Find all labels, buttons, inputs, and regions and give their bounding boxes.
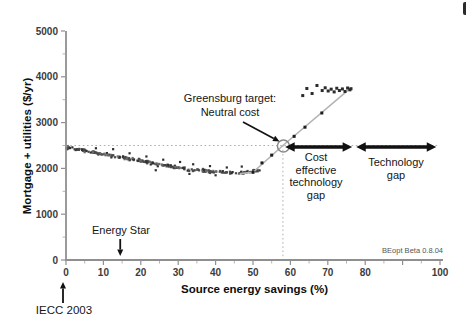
scatter-point [67,145,69,147]
technology-gap-arrow [356,142,436,152]
x-tick-label: 80 [360,267,372,278]
scatter-point [229,171,231,173]
scatter-point [188,173,190,175]
scatter-point [97,152,99,154]
cluster-point [341,87,344,90]
beopt-chart: 0102030405060708010001000200030004000500… [0,0,466,330]
cluster-point [333,90,336,93]
scatter-point [69,147,71,149]
scatter-point [77,149,79,151]
cluster-point [315,84,318,87]
scatter-point [203,169,205,171]
x-tick-label: 40 [210,267,222,278]
x-tick-label: 20 [135,267,147,278]
scatter-point [192,170,194,172]
scatter-point [95,147,97,149]
scatter-point [192,163,194,165]
scatter-point [86,150,88,152]
scatter-point [157,165,159,167]
path-marker-point [270,154,273,157]
x-tick-label: 50 [247,267,259,278]
x-tick-label: 30 [173,267,185,278]
scatter-point [145,161,147,163]
path-marker-point [293,135,296,138]
scatter-point [238,173,240,175]
scatter-point [117,155,119,157]
scatter-point [132,157,134,159]
scatter-point [128,157,130,159]
scatter-point [95,151,97,153]
cluster-point [330,88,333,91]
scatter-point [215,170,217,172]
cluster-point [349,87,352,90]
scatter-point [71,146,73,148]
scatter-point [205,170,207,172]
scatter-point [124,156,126,158]
y-tick-label: 3000 [36,117,59,128]
y-tick-label: 4000 [36,71,59,82]
axes: 0102030405060708010001000200030004000500… [36,26,449,279]
cluster-point [305,87,308,90]
x-axis-title: Source energy savings (%) [66,283,443,296]
scatter-point [152,162,154,164]
cluster-point [321,89,324,92]
x-tick-label: 100 [432,267,449,278]
scatter-point [73,148,75,150]
scatter-point [156,162,158,164]
scatter-point [209,170,211,172]
scatter-point [174,166,176,168]
scatter-point [179,161,181,163]
energy-star-label: Energy Star [71,224,171,237]
scatter-point [104,154,106,156]
scatter-point [209,165,211,167]
scatter-point [158,163,160,165]
scatter-point [235,172,237,174]
y-tick-label: 2000 [36,163,59,174]
scatter-point [161,163,163,165]
x-tick-label: 0 [63,267,69,278]
scatter-point [167,164,169,166]
beopt-version-label: BEopt Beta 0.8.04 [340,246,443,255]
scatter-point [179,167,181,169]
scatter-point [162,159,164,161]
scatter-point [215,174,217,176]
scatter-point [241,165,243,167]
path-marker-point [320,111,323,114]
scatter-point [197,169,199,171]
x-tick-label: 10 [98,267,110,278]
y-tick-label: 1000 [36,209,59,220]
scatter-point [88,151,90,153]
scatter-point [219,171,221,173]
scatter-point [223,172,225,174]
scatter-point [212,171,214,173]
scatter-point [112,154,114,156]
greensburg-target-label: Greensburg target: Neutral cost [149,91,311,119]
scatter-point [188,170,190,172]
x-tick-label: 60 [285,267,297,278]
scatter-point [90,151,92,153]
scatter-point [99,152,101,154]
scatter-point [209,172,211,174]
cluster-point [324,86,327,89]
cost-effective-gap-label: Cost effective technology gap [281,151,351,201]
iecc-2003-label: IECC 2003 [19,304,109,317]
cluster-point [311,92,314,95]
path-marker-point [252,171,255,174]
scatter-point [128,159,130,161]
path-marker-point [260,161,263,164]
cluster-point [338,89,341,92]
scatter-point [92,151,94,153]
scatter-cloud [65,145,261,176]
greensburg-arrow [243,122,280,142]
scatter-point [240,171,242,173]
scatter-point [84,151,86,153]
scatter-point [128,152,130,154]
scatter-point [138,158,140,160]
y-tick-label: 0 [52,255,58,266]
scatter-point [170,164,172,166]
scatter-point [226,166,228,168]
technology-gap-label: Technology gap [351,156,441,182]
scatter-point [81,149,83,151]
scatter-point [114,156,116,158]
scatter-point [183,167,185,169]
